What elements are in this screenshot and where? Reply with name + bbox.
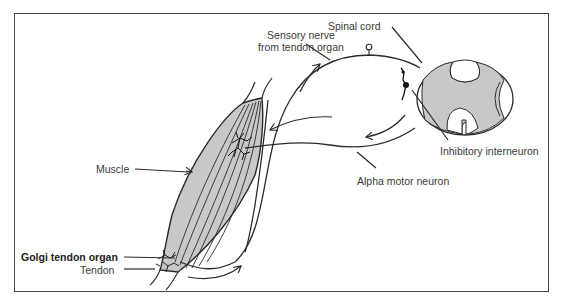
label-inhibitory-interneuron: Inhibitory interneuron xyxy=(440,145,539,157)
label-tendon: Tendon xyxy=(80,264,114,276)
label-spinal-cord: Spinal cord xyxy=(328,20,381,32)
label-golgi-tendon-organ: Golgi tendon organ xyxy=(21,251,118,263)
label-sensory-nerve-line2: from tendon organ xyxy=(258,41,344,53)
label-alpha-motor-neuron: Alpha motor neuron xyxy=(357,175,449,187)
dorsal-root-ganglion-icon xyxy=(366,44,372,50)
alpha-motor-neuron-path xyxy=(245,128,415,148)
label-muscle: Muscle xyxy=(96,163,129,175)
label-sensory-nerve: Sensory nerve from tendon organ xyxy=(258,29,344,53)
